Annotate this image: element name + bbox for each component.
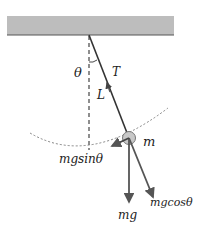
weight-label: mg bbox=[118, 209, 137, 221]
radial-force-label: mgcosθ bbox=[150, 197, 193, 208]
length-label: L bbox=[97, 89, 105, 101]
ceiling-support bbox=[7, 16, 174, 35]
mass-label: m bbox=[143, 135, 155, 148]
tangential-force-label: mgsinθ bbox=[59, 153, 103, 165]
pendulum-string bbox=[89, 35, 129, 138]
theta-angle-arc bbox=[89, 60, 97, 62]
tension-label: T bbox=[112, 66, 120, 78]
theta-label: θ bbox=[74, 66, 82, 79]
